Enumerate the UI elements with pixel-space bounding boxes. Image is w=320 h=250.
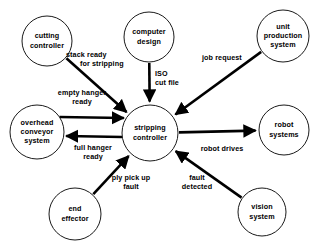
edge-label-line: ply pick up <box>112 173 151 182</box>
edge-arrow-full-hanger-ready <box>66 136 122 137</box>
node-label-line: system <box>270 40 295 49</box>
edge-robot-drives <box>179 131 256 133</box>
edge-full-hanger-ready <box>66 136 122 137</box>
edge-arrow-robot-drives <box>179 131 256 133</box>
node-label-line: overhead <box>21 118 54 127</box>
edge-label-line: detected <box>182 182 212 191</box>
edge-label-line: ISO <box>155 69 168 78</box>
edge-label-line: fault <box>123 182 139 191</box>
node-label-line: end <box>68 204 81 213</box>
node-label-line: cutting <box>35 31 60 40</box>
node-label-line: robot <box>275 120 294 129</box>
edge-label-line: job request <box>201 53 242 62</box>
edge-label-line: cut file <box>155 78 179 87</box>
node-label-line: systems <box>269 130 298 139</box>
edge-label-iso-cut-file: ISOcut file <box>155 69 179 87</box>
node-unit-production-system[interactable]: unitproductionsystem <box>257 10 309 62</box>
node-label-line: system <box>24 136 49 145</box>
edge-label-line: stack ready <box>66 50 107 59</box>
node-vision-system[interactable]: visionsystem <box>238 188 286 236</box>
node-label-line: computer <box>132 27 166 36</box>
edge-label-line: ready <box>83 152 103 161</box>
node-label-line: unit <box>276 22 290 31</box>
edge-label-ply-pick-up-fault: ply pick upfault <box>112 173 151 191</box>
node-label-line: vision <box>251 202 272 211</box>
node-label-line: system <box>249 212 274 221</box>
node-robot-systems[interactable]: robotsystems <box>259 105 309 155</box>
node-label-line: effector <box>61 214 88 223</box>
edge-label-full-hanger-ready: full hangerready <box>74 143 112 161</box>
node-label-line: conveyor <box>21 127 54 136</box>
edge-label-line: fault <box>189 173 205 182</box>
node-label-line: design <box>137 37 161 46</box>
edge-label-fault-detected: faultdetected <box>182 173 212 191</box>
edge-label-line: ready <box>72 97 92 106</box>
node-end-effector[interactable]: endeffector <box>49 188 101 240</box>
edge-label-line: empty hanger <box>58 88 106 97</box>
node-computer-design[interactable]: computerdesign <box>124 12 174 62</box>
node-label-line: stripping <box>134 123 166 132</box>
edge-label-empty-hanger-ready: empty hangerready <box>58 88 106 106</box>
edge-label-line: for stripping <box>80 59 124 68</box>
node-label-line: production <box>264 31 303 40</box>
edge-label-line: robot drives <box>201 144 244 153</box>
diagram-canvas: cuttingcontrollercomputerdesignunitprodu… <box>0 0 320 250</box>
node-overhead-conveyor-system[interactable]: overheadconveyorsystem <box>10 105 64 159</box>
edge-label-robot-drives: robot drives <box>201 144 244 153</box>
node-label-line: controller <box>30 41 64 50</box>
node-stripping-controller[interactable]: strippingcontroller <box>122 105 178 161</box>
dataflow-diagram: cuttingcontrollercomputerdesignunitprodu… <box>0 0 320 250</box>
node-label-line: controller <box>133 133 167 142</box>
edge-label-line: full hanger <box>74 143 112 152</box>
node-cutting-controller[interactable]: cuttingcontroller <box>22 16 72 66</box>
edge-empty-hanger-ready <box>59 117 123 118</box>
edge-arrow-empty-hanger-ready <box>59 117 123 118</box>
nodes-layer: cuttingcontrollercomputerdesignunitprodu… <box>10 10 309 240</box>
edge-label-job-request: job request <box>201 53 242 62</box>
